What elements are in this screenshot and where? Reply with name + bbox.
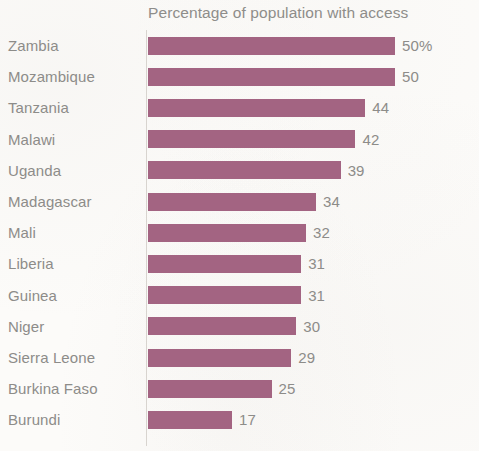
category-label: Tanzania <box>8 92 69 123</box>
bar-track: 31 <box>148 248 325 279</box>
category-label: Mali <box>8 217 36 248</box>
bar <box>148 255 301 273</box>
category-label: Guinea <box>8 280 57 311</box>
bar-row: Tanzania44 <box>0 92 479 123</box>
bar-track: 17 <box>148 404 256 435</box>
bar-track: 50% <box>148 30 432 61</box>
category-label: Niger <box>8 311 44 342</box>
bar <box>148 286 301 304</box>
bar-row: Mozambique50 <box>0 61 479 92</box>
bar <box>148 349 291 367</box>
bar-row: Sierra Leone29 <box>0 342 479 373</box>
bar-track: 42 <box>148 124 379 155</box>
category-label: Sierra Leone <box>8 342 95 373</box>
bar-value-label: 32 <box>313 224 330 241</box>
bar <box>148 411 232 429</box>
bar-row: Guinea31 <box>0 280 479 311</box>
bar-value-label: 39 <box>348 162 365 179</box>
bar-track: 29 <box>148 342 315 373</box>
bar <box>148 193 316 211</box>
bar-track: 31 <box>148 280 325 311</box>
plot-area: Zambia50%Mozambique50Tanzania44Malawi42U… <box>0 0 479 451</box>
bar-value-label: 44 <box>372 99 389 116</box>
bar-row: Madagascar34 <box>0 186 479 217</box>
bar-row: Liberia31 <box>0 248 479 279</box>
bar-value-label: 34 <box>323 193 340 210</box>
bar-track: 25 <box>148 373 295 404</box>
bar <box>148 380 272 398</box>
bar-track: 39 <box>148 155 365 186</box>
bar <box>148 68 395 86</box>
bar <box>148 224 306 242</box>
category-label: Uganda <box>8 155 61 186</box>
category-label: Malawi <box>8 124 55 155</box>
bar-track: 50 <box>148 61 419 92</box>
bar <box>148 130 355 148</box>
bar-row: Zambia50% <box>0 30 479 61</box>
bar-value-label: 42 <box>362 131 379 148</box>
category-label: Burkina Faso <box>8 373 98 404</box>
bar-row: Niger30 <box>0 311 479 342</box>
bar-track: 44 <box>148 92 389 123</box>
bar-value-label: 50 <box>402 68 419 85</box>
category-label: Burundi <box>8 404 60 435</box>
bar-row: Burkina Faso25 <box>0 373 479 404</box>
bar-value-label: 29 <box>298 349 315 366</box>
bar-value-label: 17 <box>239 411 256 428</box>
bar-row: Malawi42 <box>0 124 479 155</box>
bar-row: Uganda39 <box>0 155 479 186</box>
bar-track: 32 <box>148 217 330 248</box>
bar-value-label: 25 <box>279 380 296 397</box>
category-label: Liberia <box>8 248 54 279</box>
bar <box>148 317 296 335</box>
bar-chart: Percentage of population with access Zam… <box>0 0 479 451</box>
category-label: Mozambique <box>8 61 95 92</box>
bar-track: 30 <box>148 311 320 342</box>
bar-track: 34 <box>148 186 340 217</box>
bar-value-label: 50% <box>402 37 432 54</box>
bar <box>148 37 395 55</box>
bar-row: Mali32 <box>0 217 479 248</box>
bar <box>148 99 365 117</box>
category-label: Madagascar <box>8 186 92 217</box>
bar <box>148 161 341 179</box>
bar-value-label: 31 <box>308 255 325 272</box>
category-label: Zambia <box>8 30 59 61</box>
bar-value-label: 30 <box>303 318 320 335</box>
bar-value-label: 31 <box>308 287 325 304</box>
bar-row: Burundi17 <box>0 404 479 435</box>
